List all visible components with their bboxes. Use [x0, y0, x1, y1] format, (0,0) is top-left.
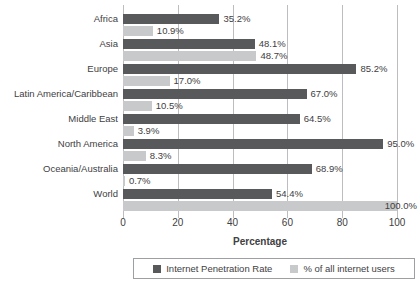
bar-penetration-rate: [123, 114, 300, 124]
value-label: 85.2%: [360, 64, 387, 74]
plot-area: 35.2%10.9%48.1%48.7%85.2%17.0%67.0%10.5%…: [123, 5, 397, 218]
bar-penetration-rate: [123, 139, 383, 149]
x-tick-label: 60: [282, 217, 293, 229]
value-label: 54.4%: [276, 189, 303, 199]
legend-item-internet-users: % of all internet users: [290, 263, 394, 274]
x-tick-label: 0: [120, 217, 126, 229]
value-label: 68.9%: [316, 164, 343, 174]
legend-label: % of all internet users: [303, 263, 394, 274]
category-label: Middle East: [0, 113, 118, 125]
bar-internet-users: [123, 201, 397, 211]
category-label: Latin America/Caribbean: [0, 88, 118, 100]
legend-swatch-dark: [153, 265, 161, 273]
category-label: Oceania/Australia: [0, 163, 118, 175]
bar-internet-users: [123, 101, 152, 111]
value-label: 0.7%: [129, 176, 151, 186]
bar-penetration-rate: [123, 89, 307, 99]
bar-internet-users: [123, 26, 153, 36]
value-label: 8.3%: [150, 151, 172, 161]
bar-internet-users: [123, 151, 146, 161]
category-label: Asia: [0, 38, 118, 50]
bar-penetration-rate: [123, 14, 219, 24]
category-label: Europe: [0, 63, 118, 75]
value-label: 17.0%: [174, 76, 201, 86]
legend-label: Internet Penetration Rate: [166, 263, 272, 274]
legend-swatch-light: [290, 265, 298, 273]
value-label: 48.1%: [259, 39, 286, 49]
gridline: [123, 5, 124, 218]
legend: Internet Penetration Rate % of all inter…: [133, 258, 415, 279]
gridline: [397, 5, 398, 218]
x-tick-label: 40: [227, 217, 238, 229]
bar-internet-users: [123, 76, 170, 86]
category-label: World: [0, 188, 118, 200]
x-tick-label: 80: [337, 217, 348, 229]
x-axis-title: Percentage: [123, 236, 397, 247]
value-label: 48.7%: [260, 51, 287, 61]
bar-penetration-rate: [123, 189, 272, 199]
gridline: [233, 5, 234, 218]
value-label: 95.0%: [387, 139, 414, 149]
bar-chart: 35.2%10.9%48.1%48.7%85.2%17.0%67.0%10.5%…: [0, 0, 418, 282]
value-label: 10.9%: [157, 26, 184, 36]
value-label: 100.0%: [385, 201, 417, 211]
value-label: 67.0%: [311, 89, 338, 99]
x-tick-label: 100: [389, 217, 406, 229]
value-label: 35.2%: [223, 14, 250, 24]
bar-internet-users: [123, 51, 256, 61]
bar-penetration-rate: [123, 164, 312, 174]
value-label: 10.5%: [156, 101, 183, 111]
bar-penetration-rate: [123, 39, 255, 49]
category-label: Africa: [0, 13, 118, 25]
bar-internet-users: [123, 126, 134, 136]
legend-item-penetration-rate: Internet Penetration Rate: [153, 263, 272, 274]
category-label: North America: [0, 138, 118, 150]
bar-internet-users: [123, 176, 125, 186]
value-label: 64.5%: [304, 114, 331, 124]
value-label: 3.9%: [138, 126, 160, 136]
gridline: [287, 5, 288, 218]
gridline: [178, 5, 179, 218]
gridline: [342, 5, 343, 218]
x-tick-label: 20: [172, 217, 183, 229]
bar-penetration-rate: [123, 64, 356, 74]
